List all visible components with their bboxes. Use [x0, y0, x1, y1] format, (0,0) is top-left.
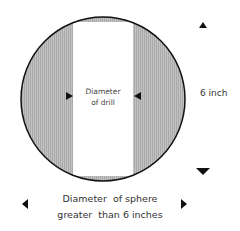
sphere-arrow-right-icon — [181, 199, 187, 209]
sphere-diameter-label: Diameter of sphere greater than 6 inches — [40, 191, 180, 223]
sphere-label-line2: greater than 6 inches — [40, 207, 180, 223]
drill-diameter-label: Diameter of drill — [73, 86, 133, 108]
sphere-arrow-left-icon — [22, 199, 28, 209]
sphere-label-line1: Diameter of sphere — [40, 191, 180, 207]
height-arrow-down-icon — [196, 168, 210, 175]
drill-label-line1: Diameter — [73, 86, 133, 97]
height-label: 6 inch — [200, 88, 227, 98]
drill-label-line2: of drill — [73, 97, 133, 108]
height-arrow-up-icon — [199, 22, 207, 28]
